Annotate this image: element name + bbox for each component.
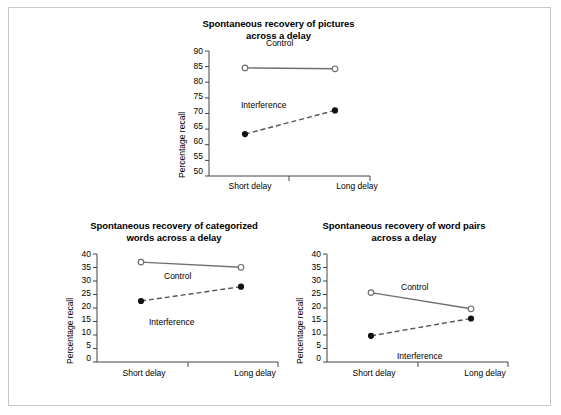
x-tick-label-short-delay: Short delay	[205, 181, 295, 191]
y-tick-label: 5	[69, 340, 91, 350]
series-label-interference: Interference	[149, 317, 194, 327]
interference-point-short-delay	[242, 131, 248, 137]
figure-panel: Spontaneous recovery of pictures across …	[8, 7, 551, 406]
y-tick-label: 75	[181, 91, 203, 101]
chart-title-categorized-words: Spontaneous recovery of categorized word…	[59, 220, 289, 243]
y-tick-label: 20	[299, 301, 321, 311]
chart-title-line1: Spontaneous recovery of word pairs	[289, 220, 519, 232]
series-label-control: Control	[266, 38, 293, 48]
y-tick-label: 55	[181, 151, 203, 161]
series-label-interference: Interference	[397, 351, 442, 361]
y-tick-label: 60	[181, 136, 203, 146]
y-tick-label: 0	[69, 353, 91, 363]
y-tick-label: 25	[299, 288, 321, 298]
y-tick-label: 20	[69, 301, 91, 311]
x-tick-label-long-delay: Long delay	[224, 368, 286, 378]
control-point-short-delay	[138, 259, 144, 265]
chart-title-line2: across a delay	[289, 232, 519, 244]
y-tick-label: 10	[69, 327, 91, 337]
y-tick-label: 35	[69, 262, 91, 272]
y-tick-label: 40	[299, 249, 321, 259]
control-point-long-delay	[468, 306, 474, 312]
interference-point-short-delay	[368, 333, 374, 339]
x-tick-label-long-delay: Long delay	[454, 368, 516, 378]
y-tick-label: 80	[181, 76, 203, 86]
x-tick-label-long-delay: Long delay	[326, 181, 388, 191]
y-tick-label: 0	[299, 353, 321, 363]
y-tick-label: 90	[181, 46, 203, 56]
y-tick-label: 35	[299, 262, 321, 272]
y-tick-label: 85	[181, 61, 203, 71]
chart-title-line1: Spontaneous recovery of pictures	[171, 18, 386, 30]
series-label-control: Control	[401, 282, 428, 292]
y-tick-label: 65	[181, 121, 203, 131]
interference-point-long-delay	[332, 107, 338, 113]
interference-line	[141, 287, 241, 301]
y-tick-label: 15	[299, 314, 321, 324]
control-line	[371, 293, 471, 309]
y-tick-label: 30	[299, 275, 321, 285]
y-tick-label: 15	[69, 314, 91, 324]
y-tick-label: 70	[181, 106, 203, 116]
interference-point-long-delay	[468, 315, 474, 321]
chart-title-word-pairs: Spontaneous recovery of word pairs acros…	[289, 220, 519, 243]
control-line	[141, 262, 241, 267]
y-tick-label: 25	[69, 288, 91, 298]
y-tick-label: 40	[69, 249, 91, 259]
control-point-short-delay	[368, 290, 374, 296]
series-label-interference: Interference	[241, 100, 286, 110]
control-point-long-delay	[332, 66, 338, 72]
x-tick-label-short-delay: Short delay	[329, 368, 419, 378]
chart-title-line2: words across a delay	[59, 232, 289, 244]
series-label-control: Control	[164, 271, 191, 281]
x-tick-label-short-delay: Short delay	[99, 368, 189, 378]
chart-title-line1: Spontaneous recovery of categorized	[59, 220, 289, 232]
y-tick-label: 5	[299, 340, 321, 350]
y-tick-label: 10	[299, 327, 321, 337]
control-point-long-delay	[238, 265, 244, 271]
control-line	[245, 68, 335, 69]
interference-line	[371, 319, 471, 336]
y-tick-label: 50	[181, 166, 203, 176]
interference-line	[245, 110, 335, 134]
chart-word-pairs: Spontaneous recovery of word pairs acros…	[289, 220, 519, 400]
interference-point-long-delay	[238, 284, 244, 290]
chart-pictures: Spontaneous recovery of pictures across …	[171, 18, 386, 218]
control-point-short-delay	[242, 65, 248, 71]
plot-area-pictures	[205, 46, 375, 186]
interference-point-short-delay	[138, 298, 144, 304]
plot-area-categorized-words	[93, 249, 283, 374]
chart-categorized-words: Spontaneous recovery of categorized word…	[59, 220, 289, 400]
y-tick-label: 30	[69, 275, 91, 285]
